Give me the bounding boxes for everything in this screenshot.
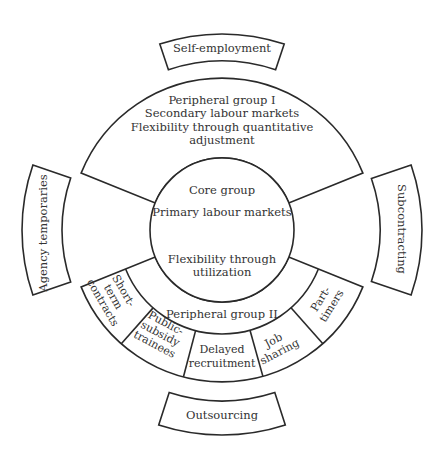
peripheral-group-1-flex-line2: adjustment [189,133,255,147]
svg-text:recruitment: recruitment [189,357,256,370]
core-group-title: Core group [189,183,255,197]
peripheral-group-1-title: Peripheral group I [168,93,275,107]
agency-temporaries-label: Agency temporaries [36,174,50,292]
subcontracting-label: Subcontracting [395,184,409,275]
diagram-canvas: Self-employment Outsourcing Agency tempo… [0,0,442,457]
core-group-flex-line1: Flexibility through [168,252,277,266]
core-group-flex-line2: utilization [193,265,252,279]
self-employment-label: Self-employment [173,41,271,55]
svg-text:Delayed: Delayed [199,343,244,356]
outsourcing-label: Outsourcing [186,408,259,422]
core-group-market: Primary labour markets [152,205,291,219]
flexible-firm-diagram: Self-employment Outsourcing Agency tempo… [0,0,442,457]
peripheral-group-2-title: Peripheral group II [166,307,278,321]
peripheral-group-1-flex-line1: Flexibility through quantitative [131,120,314,134]
peripheral-group-1-market: Secondary labour markets [145,106,299,120]
core-group-circle [150,158,294,302]
